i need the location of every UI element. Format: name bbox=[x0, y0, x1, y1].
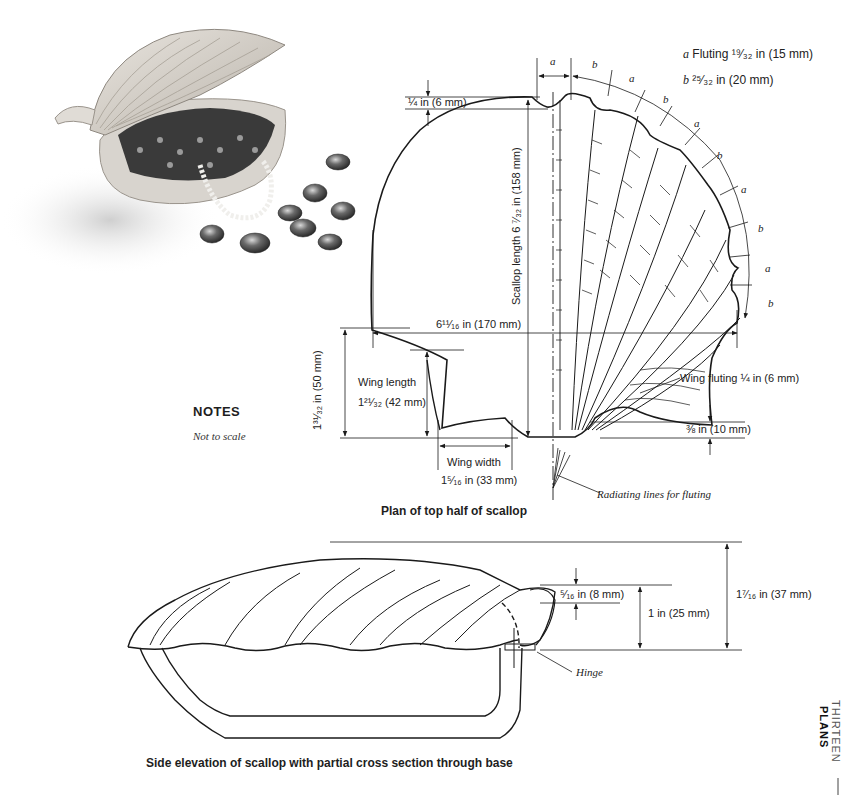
plan-caption: Plan of top half of scallop bbox=[381, 504, 527, 518]
legend-b-text: ²⁵⁄₃₂ in (20 mm) bbox=[692, 73, 773, 87]
notes-heading: NOTES bbox=[193, 404, 240, 419]
legend-b: b ²⁵⁄₃₂ in (20 mm) bbox=[683, 73, 774, 88]
flute-label: a bbox=[629, 72, 635, 84]
flute-label: b bbox=[758, 222, 764, 234]
flute-label: b bbox=[663, 93, 669, 105]
dim-scallop-length: Scallop length 6 ⁷⁄₃₂ in (158 mm) bbox=[510, 147, 522, 305]
dim-wing-width-value: 1⁵⁄₁₆ in (33 mm) bbox=[441, 474, 517, 486]
plan-view bbox=[371, 92, 740, 500]
dim-wing-height: 1³¹⁄₃₂ in (50 mm) bbox=[311, 350, 323, 430]
flute-label: a bbox=[694, 117, 700, 129]
legend-a-letter: a bbox=[683, 47, 689, 61]
legend-b-letter: b bbox=[683, 73, 689, 87]
dim-total-height: 1⁷⁄₁₆ in (37 mm) bbox=[736, 588, 812, 600]
flute-label: b bbox=[717, 149, 723, 161]
dim-base-offset: ⅜ in (10 mm) bbox=[686, 423, 751, 435]
notes-text: Not to scale bbox=[193, 430, 246, 442]
section-chapter: THIRTEEN bbox=[830, 700, 842, 763]
legend-a: a Fluting ¹⁹⁄₃₂ in (15 mm) bbox=[683, 47, 813, 62]
flute-label: b bbox=[592, 58, 598, 70]
dim-wing-length-label: Wing length bbox=[358, 376, 416, 388]
flute-label: a bbox=[765, 262, 771, 274]
elevation-caption: Side elevation of scallop with partial c… bbox=[146, 756, 513, 770]
dim-hinge-height: 1 in (25 mm) bbox=[648, 607, 710, 619]
flute-label: a bbox=[550, 55, 556, 67]
plan-dimensions bbox=[340, 58, 752, 470]
hinge-label: Hinge bbox=[576, 666, 603, 678]
radiating-lines-note: Radiating lines for fluting bbox=[597, 488, 711, 500]
section-tab: THIRTEEN PLANS bbox=[818, 700, 842, 763]
side-elevation bbox=[128, 559, 555, 738]
dim-wing-width-label: Wing width bbox=[447, 456, 501, 468]
dim-width: 6¹¹⁄₁₆ in (170 mm) bbox=[436, 318, 521, 330]
legend-a-text: Fluting ¹⁹⁄₃₂ in (15 mm) bbox=[692, 47, 813, 61]
section-title: PLANS bbox=[818, 706, 830, 748]
dim-wing-fluting: Wing fluting ¼ in (6 mm) bbox=[680, 372, 799, 384]
flute-label: b bbox=[768, 297, 774, 309]
flute-label: a bbox=[741, 183, 747, 195]
dim-wing-length-value: 1²¹⁄₃₂ (42 mm) bbox=[358, 396, 426, 408]
dim-lip: ⁵⁄₁₆ in (8 mm) bbox=[560, 588, 624, 600]
dim-top-notch: ¼ in (6 mm) bbox=[408, 96, 467, 108]
